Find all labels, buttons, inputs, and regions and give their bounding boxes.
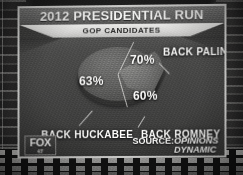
subtitle-wedge-left (19, 25, 53, 38)
broadcast-graphic-panel: 2012 PRESIDENTIAL RUN GOP CANDIDATES (18, 4, 227, 159)
data-label-huckabee: 63% (79, 74, 104, 88)
graphic-title-bar: 2012 PRESIDENTIAL RUN (19, 6, 224, 25)
page-title: 2012 PRESIDENTIAL RUN (40, 7, 204, 24)
subtitle-wedge-right (190, 23, 224, 36)
source-label: SOURCE: (132, 136, 174, 146)
fox-logo-text: FOX (30, 137, 52, 148)
tv-screenshot-photo: 2012 PRESIDENTIAL RUN GOP CANDIDATES (0, 0, 243, 175)
source-line-2: DYNAMIC (132, 146, 218, 156)
fox-network-logo: FOX 47 (24, 135, 56, 155)
data-label-romney: 60% (133, 89, 158, 103)
graphic-footer: FOX 47 SOURCE:OPINIONS DYNAMIC (19, 133, 224, 156)
desk-dash-row (0, 166, 243, 171)
pie-chart: 70% 63% 60% BACK PALIN BACK HUCKABEE BAC… (19, 36, 224, 135)
leader-line-romney (138, 116, 146, 128)
leader-line-huckabee (79, 110, 93, 126)
fox-logo-channel-number: 47 (37, 149, 43, 154)
source-name-part-2: DYNAMIC (174, 145, 216, 155)
category-label-palin: BACK PALIN (163, 46, 226, 58)
desk-dash-row (0, 158, 243, 163)
graphic-subtitle: GOP CANDIDATES (83, 26, 161, 36)
desk-dash-row (0, 172, 243, 175)
source-attribution: SOURCE:OPINIONS DYNAMIC (132, 136, 218, 156)
data-label-palin: 70% (130, 53, 155, 67)
